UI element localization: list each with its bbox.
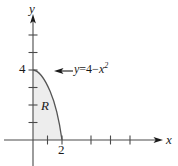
equation-exponent: 2 xyxy=(104,61,108,70)
y-axis-label: y xyxy=(29,2,35,15)
region-label-R: R xyxy=(41,99,49,112)
y-axis-tick-label-4: 4 xyxy=(19,62,26,75)
equation-minus: − xyxy=(92,62,99,76)
x-axis-label: x xyxy=(166,133,172,146)
figure-container: y x 4 2 R y=4−x2 xyxy=(0,0,178,166)
graph-canvas xyxy=(0,0,178,166)
equation-annotation: y=4−x2 xyxy=(74,62,108,75)
x-axis-tick-label-2: 2 xyxy=(58,143,65,156)
